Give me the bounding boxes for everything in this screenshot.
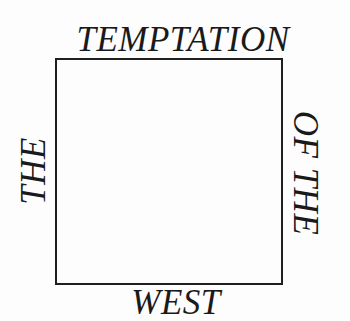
title-word-bottom: WEST (0, 285, 350, 320)
title-word-right: OF THE (288, 111, 323, 236)
title-frame-box (55, 58, 283, 285)
title-word-left: THE (16, 137, 51, 205)
title-word-top: TEMPTATION (0, 22, 350, 57)
